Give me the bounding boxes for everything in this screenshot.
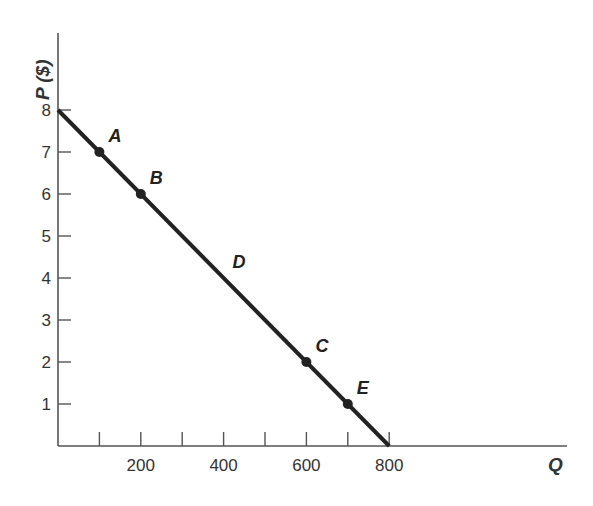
points-layer: ABDCE <box>94 126 369 409</box>
x-tick-label: 600 <box>292 456 320 475</box>
point-marker-a <box>94 147 104 157</box>
y-tick-label: 1 <box>42 395 51 414</box>
y-tick-label: 2 <box>42 353 51 372</box>
point-label-a: A <box>107 126 121 146</box>
y-tick-label: 5 <box>42 227 51 246</box>
x-tick-label: 200 <box>127 456 155 475</box>
x-tick-label: 800 <box>375 456 403 475</box>
point-label-e: E <box>357 378 370 398</box>
point-marker-e <box>343 399 353 409</box>
point-label-c: C <box>315 336 329 356</box>
point-label-b: B <box>150 168 163 188</box>
point-marker-b <box>136 189 146 199</box>
y-tick-label: 4 <box>42 269 51 288</box>
x-tick-label: 400 <box>209 456 237 475</box>
y-tick-label: 3 <box>42 311 51 330</box>
axes: 12345678200400600800 <box>42 33 567 475</box>
point-label-d: D <box>233 252 246 272</box>
point-marker-c <box>301 357 311 367</box>
demand-chart: 12345678200400600800 ABDCE P ($) Q <box>0 0 593 506</box>
x-axis-title: Q <box>548 454 563 475</box>
y-tick-label: 7 <box>42 143 51 162</box>
demand-curve <box>58 110 389 446</box>
y-axis-title: P ($) <box>32 60 53 100</box>
series-layer <box>58 110 389 446</box>
y-tick-label: 8 <box>42 101 51 120</box>
y-tick-label: 6 <box>42 185 51 204</box>
